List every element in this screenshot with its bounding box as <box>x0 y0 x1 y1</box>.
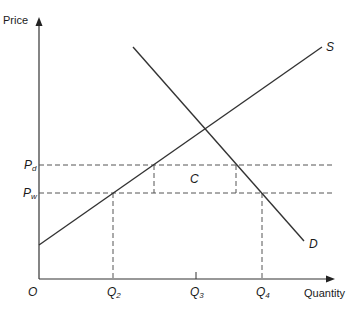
q3-label: Q3 <box>190 285 204 300</box>
y-axis-label: Price <box>3 14 28 26</box>
demand-label: D <box>309 237 318 251</box>
demand-curve <box>133 47 304 241</box>
x-axis-label: Quantity <box>304 287 345 299</box>
supply-label: S <box>326 40 334 54</box>
origin-label: O <box>28 285 37 299</box>
y-axis-arrow-icon <box>36 17 43 26</box>
q4-label: Q4 <box>256 285 270 300</box>
q2-label: Q2 <box>107 285 121 300</box>
axes <box>39 24 328 279</box>
x-axis-arrow-icon <box>326 276 335 283</box>
pd-label: Pd <box>24 158 37 173</box>
quantity-guides <box>113 165 262 279</box>
pw-label: Pw <box>23 186 38 201</box>
price-guides <box>39 165 333 193</box>
supply-demand-diagram: Price Quantity O Pd Pw Q2 Q3 Q4 S D C <box>0 0 354 309</box>
area-c-label: C <box>190 172 199 186</box>
supply-curve <box>39 47 322 245</box>
